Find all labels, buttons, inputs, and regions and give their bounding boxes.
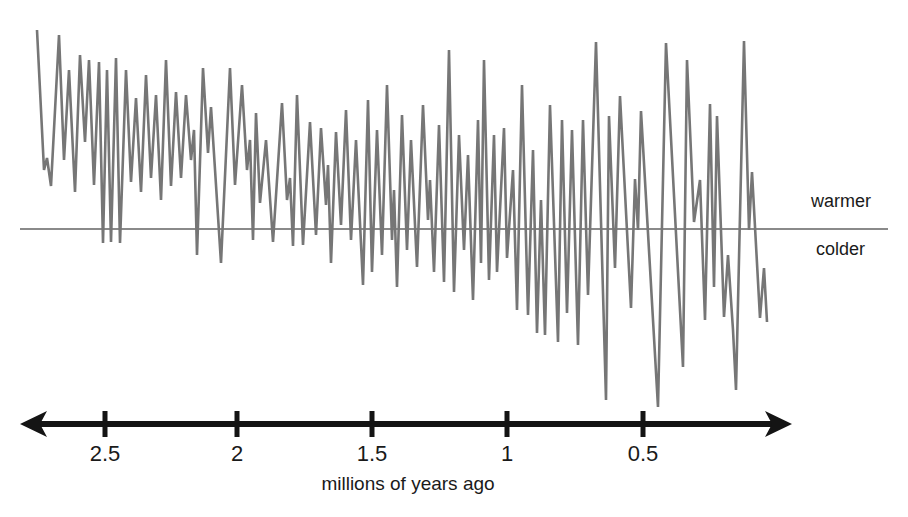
colder-label: colder <box>816 240 865 260</box>
x-tick-label-1-5: 1.5 <box>357 441 388 467</box>
x-tick-label-2: 2 <box>231 441 243 467</box>
time-axis <box>20 411 792 437</box>
x-axis-title: millions of years ago <box>321 474 494 495</box>
x-tick-label-1: 1 <box>501 441 513 467</box>
axis-tick-2.5 <box>103 411 108 437</box>
x-tick-label-2-5: 2.5 <box>90 441 121 467</box>
axis-tick-1 <box>505 411 510 437</box>
temperature-series-line <box>37 30 767 407</box>
warmer-label: warmer <box>811 192 871 212</box>
x-tick-label-0-5: 0.5 <box>628 441 659 467</box>
axis-tick-2 <box>235 411 240 437</box>
axis-tick-1.5 <box>370 411 375 437</box>
temperature-chart-canvas <box>0 0 908 517</box>
axis-tick-0.5 <box>641 411 646 437</box>
climate-oscillation-figure: warmer colder 2.521.510.5 millions of ye… <box>0 0 908 517</box>
